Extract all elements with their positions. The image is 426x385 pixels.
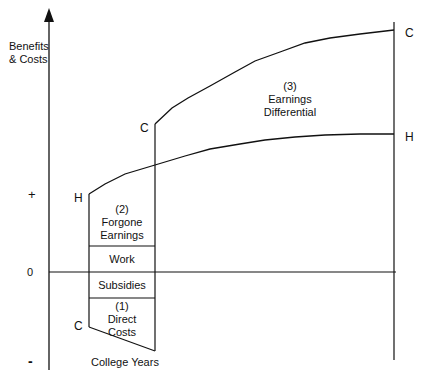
region-forgone-earnings: (2) Forgone Earnings bbox=[89, 203, 155, 242]
region-differential-number: (3) bbox=[250, 80, 330, 93]
curve-label-c-bottom: C bbox=[74, 320, 83, 333]
minus-sign: - bbox=[28, 355, 33, 368]
y-axis-label-line1: Benefits bbox=[9, 40, 49, 53]
region-differential-line2: Differential bbox=[250, 106, 330, 119]
region-forgone-line2: Earnings bbox=[89, 229, 155, 242]
curve-label-h-left: H bbox=[74, 192, 83, 205]
region-direct-costs: (1) Direct Costs bbox=[89, 300, 155, 339]
region-differential-line1: Earnings bbox=[250, 93, 330, 106]
region-forgone-line1: Forgone bbox=[89, 216, 155, 229]
y-axis-arrow-icon bbox=[44, 8, 54, 22]
curve-label-c-right: C bbox=[405, 27, 414, 40]
high-school-earnings-curve bbox=[89, 134, 394, 194]
plus-sign: + bbox=[28, 188, 36, 201]
region-direct-line2: Costs bbox=[89, 326, 155, 339]
region-direct-line1: Direct bbox=[89, 313, 155, 326]
region-forgone-number: (2) bbox=[89, 203, 155, 216]
region-work: Work bbox=[89, 253, 155, 266]
curve-label-c-mid: C bbox=[140, 122, 149, 135]
region-earnings-differential: (3) Earnings Differential bbox=[250, 80, 330, 119]
curve-label-h-right: H bbox=[405, 131, 414, 144]
region-direct-number: (1) bbox=[89, 300, 155, 313]
diagram-canvas bbox=[0, 0, 426, 385]
region-subsidies: Subsidies bbox=[89, 279, 155, 292]
y-axis-label-line2: & Costs bbox=[9, 53, 49, 66]
x-axis-label: College Years bbox=[91, 356, 159, 369]
y-axis-label: Benefits & Costs bbox=[9, 40, 49, 66]
zero-label: 0 bbox=[27, 266, 33, 279]
